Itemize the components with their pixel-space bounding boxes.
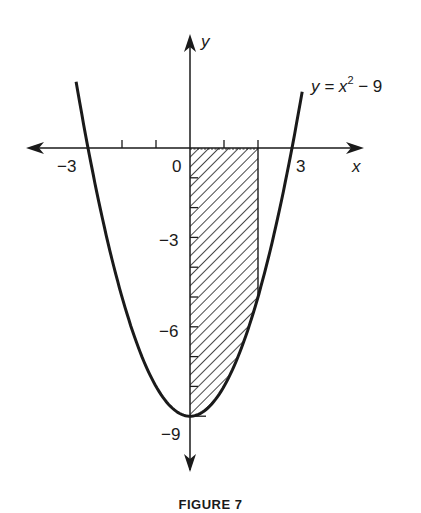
y-tick-label-neg9: −9 (161, 425, 180, 444)
parabola-figure: y x −3 0 3 −3 −6 −9 y = x2 − 9 (0, 0, 421, 513)
parabola-curve (76, 82, 302, 416)
x-axis-label: x (351, 157, 361, 176)
curve-equation-base: y = x (310, 77, 348, 96)
curve-equation-tail: − 9 (354, 77, 383, 96)
curve-equation-label: y = x2 − 9 (310, 74, 382, 96)
x-tick-label-3: 3 (296, 157, 305, 176)
y-tick-label-neg6: −6 (159, 322, 178, 341)
x-tick-label-0: 0 (172, 157, 181, 176)
y-tick-label-neg3: −3 (159, 231, 178, 250)
y-axis-label: y (200, 32, 211, 51)
x-tick-label-neg3: −3 (57, 157, 76, 176)
figure-caption: FIGURE 7 (0, 497, 421, 512)
shaded-area-region (190, 148, 258, 416)
